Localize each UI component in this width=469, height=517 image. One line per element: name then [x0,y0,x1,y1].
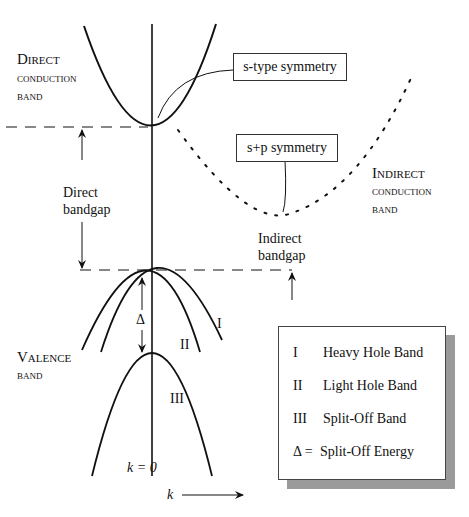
sp-symmetry-box: s+p symmetry [236,134,338,162]
direct-conduction-band-curve [84,24,216,126]
legend-box: IHeavy Hole Band IILight Hole Band IIISp… [278,326,446,480]
legend-item-split-off-band: IIISplit-Off Band [293,411,406,427]
s-type-callout-line [158,70,233,118]
direct-conduction-band-label: Direct conduction band [17,50,77,105]
s-type-symmetry-text: s-type symmetry [243,59,337,75]
legend-item-split-off-energy: Δ =Split-Off Energy [293,444,414,460]
k-axis-label: k [167,486,173,503]
band-II-label: II [180,336,189,353]
s-type-symmetry-box: s-type symmetry [233,53,347,81]
legend-text: Light Hole Band [323,378,417,393]
sp-callout-line [283,160,286,212]
legend-text: Split-Off Energy [320,444,414,459]
heavy-hole-band-curve [101,268,222,352]
legend-text: Heavy Hole Band [323,345,423,360]
legend-symbol: III [293,411,323,427]
legend-symbol: I [293,345,323,361]
valence-band-label: Valence band [17,348,71,384]
legend-item-light-hole: IILight Hole Band [293,378,417,394]
band-I-label: I [217,315,222,332]
legend-symbol: II [293,378,323,394]
legend-item-heavy-hole: IHeavy Hole Band [293,345,423,361]
k-zero-label: k = 0 [127,459,157,476]
sp-symmetry-text: s+p symmetry [247,140,327,156]
legend-text: Split-Off Band [323,411,406,426]
direct-bandgap-label: Direct bandgap [63,184,110,218]
legend-symbol: Δ = [293,444,320,460]
indirect-conduction-band-label: Indirect conduction band [372,164,432,218]
delta-label: Δ [136,311,145,328]
indirect-bandgap-label: Indirect bandgap [258,230,305,264]
band-III-label: III [170,390,184,407]
